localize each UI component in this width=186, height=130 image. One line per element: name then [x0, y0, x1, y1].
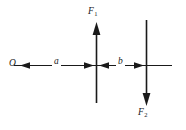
dimension-b-right-arrowhead	[134, 62, 144, 68]
force-1-subscript: 1	[94, 10, 97, 17]
dimension-b-label: b	[116, 57, 125, 67]
force-1-label: F1	[88, 7, 97, 17]
dimension-a-label: a	[52, 57, 61, 67]
dimension-b-left-arrowhead	[99, 62, 109, 68]
force-2-label: F2	[138, 108, 147, 118]
force-2-symbol: F	[138, 107, 144, 117]
origin-label: O	[9, 59, 16, 69]
force-1-arrowhead-up	[93, 22, 101, 35]
force-1-symbol: F	[88, 6, 94, 16]
force-diagram-figure: O a b F1 F2	[0, 0, 186, 130]
dimension-a-left-arrowhead	[20, 62, 30, 68]
force-diagram-canvas	[0, 0, 186, 130]
dimension-a-right-arrowhead	[84, 62, 94, 68]
force-2-subscript: 2	[144, 111, 147, 118]
force-2-arrowhead-down	[143, 93, 151, 106]
